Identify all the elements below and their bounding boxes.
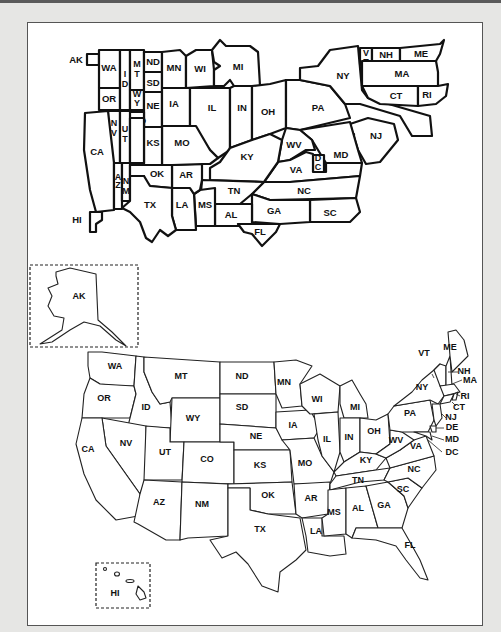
geo-label-wv: WV — [389, 435, 404, 445]
geo-state-fl[interactable] — [352, 528, 428, 580]
schematic-label-nm-2: M — [122, 186, 130, 196]
schematic-label-va: VA — [290, 164, 303, 175]
geo-label-ky: KY — [360, 455, 373, 465]
schematic-label-mt-2: T — [134, 69, 140, 79]
schematic-label-al: AL — [225, 209, 238, 220]
schematic-state-co-ext[interactable] — [130, 118, 144, 163]
geo-label-fl: FL — [405, 540, 416, 550]
geo-label-ct: CT — [453, 402, 465, 412]
geo-label-ak: AK — [73, 291, 86, 301]
schematic-label-ky: KY — [240, 151, 254, 162]
schematic-label-la: LA — [176, 199, 189, 210]
schematic-label-ny: NY — [336, 70, 350, 81]
schematic-label-ms: MS — [198, 199, 212, 210]
schematic-label-hi: HI — [72, 214, 82, 225]
schematic-label-il: IL — [208, 102, 217, 113]
schematic-label-mn: MN — [167, 62, 182, 73]
schematic-label-pa: PA — [312, 102, 325, 113]
schematic-label-md: MD — [334, 149, 349, 160]
geo-label-ca: CA — [82, 444, 95, 454]
geo-label-nj: NJ — [445, 412, 457, 422]
geo-label-nc: NC — [408, 464, 421, 474]
schematic-label-sc: SC — [323, 207, 336, 218]
maps-svg: AK WA OR I D M T W Y ND SD NE MN WI MI — [0, 0, 501, 632]
schematic-state-ca[interactable] — [84, 111, 114, 212]
schematic-label-id-2: D — [122, 79, 129, 89]
schematic-label-ga: GA — [267, 205, 281, 216]
geo-hi-island-3 — [126, 580, 134, 583]
geo-label-wi: WI — [312, 394, 323, 404]
geo-state-ia[interactable] — [276, 410, 320, 440]
geo-label-al: AL — [352, 503, 364, 513]
geo-label-oh: OH — [367, 426, 381, 436]
geo-label-in: IN — [345, 432, 354, 442]
geo-label-hi: HI — [111, 588, 120, 598]
geo-state-nj[interactable] — [432, 404, 442, 426]
geo-label-wy: WY — [186, 413, 201, 423]
geo-label-ny: NY — [416, 382, 429, 392]
geo-label-mt: MT — [175, 371, 188, 381]
geo-label-nv: NV — [120, 438, 133, 448]
schematic-label-wi: WI — [194, 63, 206, 74]
geo-label-mo: MO — [298, 458, 313, 468]
schematic-label-nv: N — [111, 118, 118, 128]
schematic-label-dc-2: C — [315, 162, 322, 172]
geo-label-la: LA — [310, 526, 322, 536]
geo-label-pa: PA — [404, 408, 416, 418]
schematic-label-nd: ND — [146, 56, 160, 67]
schematic-label-ia: IA — [169, 98, 179, 109]
schematic-label-nj: NJ — [370, 130, 382, 141]
schematic-label-or: OR — [102, 93, 116, 104]
schematic-label-az-2: Z — [115, 180, 121, 190]
geo-label-ms: MS — [327, 507, 341, 517]
geographic-map: AK HI WA OR ID MT WY NV CA UT CO — [30, 265, 477, 608]
schematic-map: AK WA OR I D M T W Y ND SD NE MN WI MI — [69, 40, 448, 246]
schematic-label-id: I — [124, 69, 127, 79]
schematic-label-wa: WA — [101, 62, 116, 73]
schematic-label-tn: TN — [228, 185, 241, 196]
schematic-label-ct: CT — [390, 90, 403, 101]
geo-state-de[interactable] — [430, 426, 436, 432]
geo-label-ma: MA — [463, 375, 477, 385]
geo-hi-island-1 — [104, 568, 107, 571]
schematic-label-ut-2: T — [122, 134, 128, 144]
schematic-label-wv: WV — [286, 139, 302, 150]
schematic-label-ne: NE — [146, 100, 159, 111]
geo-hi-island-4 — [136, 586, 146, 600]
geo-label-vt: VT — [418, 348, 430, 358]
geo-label-ia: IA — [289, 420, 299, 430]
geo-label-ar: AR — [305, 493, 318, 503]
geo-state-ak[interactable] — [40, 268, 126, 346]
geo-label-nd: ND — [236, 371, 249, 381]
schematic-label-ma: MA — [395, 68, 410, 79]
schematic-label-me: ME — [414, 48, 428, 59]
schematic-label-mi: MI — [233, 61, 244, 72]
schematic-label-ri: RI — [422, 89, 432, 100]
schematic-label-ok: OK — [150, 168, 164, 179]
schematic-state-hi[interactable] — [90, 212, 102, 232]
schematic-label-nh: NH — [379, 49, 393, 60]
schematic-label-ut: U — [122, 124, 129, 134]
schematic-label-nc: NC — [297, 185, 311, 196]
geo-label-mn: MN — [277, 377, 291, 387]
schematic-label-tx: TX — [144, 199, 157, 210]
geo-label-de: DE — [446, 422, 459, 432]
geo-label-az: AZ — [153, 497, 165, 507]
schematic-label-ca: CA — [90, 146, 104, 157]
geo-label-ga: GA — [377, 500, 391, 510]
geo-label-wa: WA — [108, 361, 123, 371]
schematic-label-ak: AK — [69, 54, 83, 65]
schematic-label-sd: SD — [146, 77, 159, 88]
geo-label-il: IL — [323, 434, 332, 444]
schematic-label-wy-2: Y — [134, 98, 140, 108]
geo-state-az[interactable] — [134, 480, 182, 540]
geo-state-nm[interactable] — [180, 482, 228, 540]
geo-label-ok: OK — [261, 490, 275, 500]
schematic-state-in[interactable] — [230, 86, 252, 148]
geo-label-md: MD — [445, 434, 459, 444]
geo-label-co: CO — [200, 454, 214, 464]
geo-label-ri: RI — [461, 391, 470, 401]
geo-label-dc: DC — [446, 447, 459, 457]
schematic-label-oh: OH — [261, 106, 275, 117]
schematic-state-ak[interactable] — [87, 54, 99, 65]
